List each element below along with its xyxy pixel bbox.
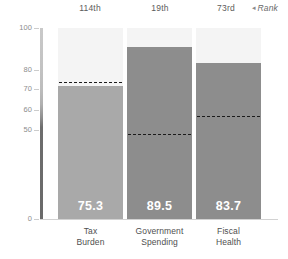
category-line: Fiscal	[188, 226, 269, 237]
bar-tax-burden[interactable]: 75.3	[58, 86, 123, 219]
y-tick-mark	[34, 110, 39, 111]
category-line: Health	[188, 237, 269, 248]
y-tick-mark	[34, 89, 39, 90]
rank-legend: ◂Rank	[252, 3, 278, 13]
y-tick-50: 50	[0, 125, 40, 135]
left-caret-icon: ◂	[252, 4, 256, 11]
reference-line-government-spending	[128, 134, 191, 135]
y-tick-100: 100	[0, 23, 40, 33]
y-tick-0: 0	[0, 214, 40, 224]
y-tick-mark	[34, 130, 39, 131]
reference-line-fiscal-health	[197, 116, 260, 117]
y-tick-label: 60	[23, 105, 32, 115]
reference-line-tax-burden	[59, 82, 122, 83]
category-label-fiscal-health: Fiscal Health	[188, 226, 269, 247]
bar-fiscal-health[interactable]: 83.7	[196, 63, 261, 219]
rank-header-row: 114th 19th 73rd ◂Rank	[0, 0, 288, 22]
bar-value-label: 89.5	[127, 199, 192, 213]
y-tick-70: 70	[0, 84, 40, 94]
y-tick-label: 100	[19, 23, 32, 33]
bar-group-fiscal-health[interactable]: 83.7	[196, 28, 261, 219]
y-tick-label: 70	[23, 84, 32, 94]
y-tick-label: 80	[23, 65, 32, 75]
bar-group-government-spending[interactable]: 89.5	[127, 28, 192, 219]
x-axis-baseline	[40, 219, 278, 220]
y-tick-label: 0	[28, 214, 32, 224]
y-tick-mark	[34, 70, 39, 71]
y-tick-mark	[34, 219, 39, 220]
y-tick-60: 60	[0, 105, 40, 115]
bar-group-tax-burden[interactable]: 75.3	[58, 28, 123, 219]
bar-chart: 114th 19th 73rd ◂Rank 100 80 70 60 50 0 …	[0, 0, 288, 259]
y-tick-label: 50	[23, 125, 32, 135]
bar-value-label: 75.3	[58, 199, 123, 213]
bar-value-label: 83.7	[196, 199, 261, 213]
y-tick-80: 80	[0, 65, 40, 75]
y-axis-spine	[40, 28, 43, 219]
rank-legend-label: Rank	[258, 3, 278, 13]
y-tick-mark	[34, 28, 39, 29]
bar-government-spending[interactable]: 89.5	[127, 47, 192, 219]
